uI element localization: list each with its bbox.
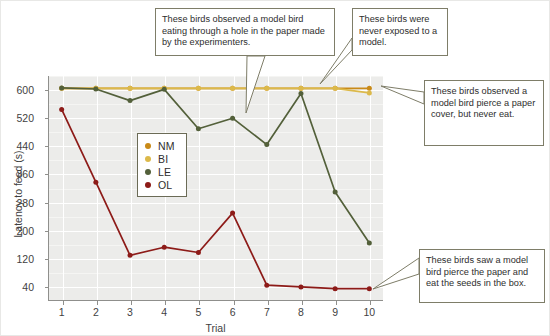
callout-le: These birds observed a model bird eating… xyxy=(155,8,335,56)
callout-bi: These birds observed a model bird pierce… xyxy=(424,80,544,146)
callout-ol: These birds saw a model bird pierce the … xyxy=(419,249,545,303)
callout-nm: These birds were never exposed to a mode… xyxy=(352,8,448,56)
